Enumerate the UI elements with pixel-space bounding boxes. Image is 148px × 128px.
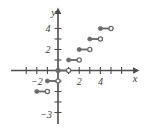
y-axis-label: y (50, 7, 56, 18)
x-tick-label-4: 4 (98, 76, 103, 87)
closed-dot-1 (67, 58, 71, 62)
open-dot-2 (88, 47, 92, 51)
y-tick-label-neg3: −3 (40, 109, 52, 120)
open-dot-neg1 (56, 79, 60, 83)
open-dot-0 (67, 68, 71, 72)
closed-dot-0 (56, 68, 61, 73)
open-dot-1 (77, 58, 81, 62)
y-tick-label-4: 4 (46, 23, 51, 34)
y-tick-label-2: 2 (46, 44, 51, 55)
closed-dot-2 (77, 47, 81, 51)
closed-dot-3 (88, 37, 92, 41)
open-dot-4 (109, 26, 113, 30)
open-dot-neg2 (45, 89, 49, 93)
x-tick-label-neg2: −2 (31, 76, 43, 87)
closed-dot-4 (98, 26, 102, 30)
step-function-chart: −2 2 4 4 2 −3 y x (0, 0, 148, 128)
x-tick-label-2: 2 (77, 76, 82, 87)
x-axis-label: x (132, 73, 138, 84)
plot-area: −2 2 4 4 2 −3 y x (0, 0, 148, 128)
closed-dot-neg1 (45, 79, 49, 83)
open-dot-3 (98, 37, 102, 41)
closed-dot-neg2 (35, 89, 39, 93)
